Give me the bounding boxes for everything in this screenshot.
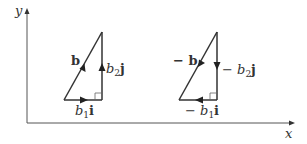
- label-b: b: [71, 54, 80, 67]
- right-angle-marker: [210, 93, 217, 100]
- x-axis-label: x: [285, 127, 292, 140]
- y-axis-arrow-icon: [25, 8, 30, 14]
- x-axis-arrow-icon: [289, 121, 295, 126]
- y-axis-label: y: [15, 4, 22, 17]
- y-axis: [25, 8, 30, 123]
- label-neg-b: − b: [173, 54, 198, 67]
- arrow-down-icon: [214, 62, 221, 70]
- vector-diagram: y x b b2j b1i − b − b2j − b1i: [0, 0, 307, 144]
- right-angle-marker: [95, 93, 102, 100]
- label-neg-b2j: − b2j: [222, 63, 256, 79]
- arrow-up-icon: [99, 63, 106, 71]
- label-neg-b1i: − b1i: [185, 104, 219, 120]
- label-b2j: b2j: [106, 62, 125, 78]
- x-axis: [27, 121, 295, 126]
- diagram-canvas: [0, 0, 307, 144]
- label-b1i: b1i: [75, 104, 94, 120]
